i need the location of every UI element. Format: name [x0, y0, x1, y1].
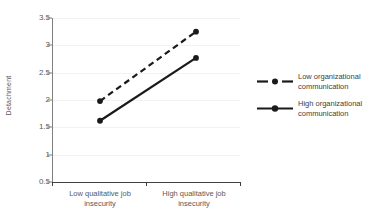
data-point-low-left — [97, 98, 103, 104]
interaction-plot-figure: Detachment 3.5 3 2.5 2 1.5 1 0.5 Low qua… — [0, 0, 383, 224]
legend: Low organizational communication High or… — [256, 72, 383, 127]
legend-label-high: High organizational communication — [298, 99, 382, 119]
legend-label-low: Low organizational communication — [298, 72, 382, 92]
legend-label-low-line2: communication — [298, 82, 382, 92]
legend-key-dashed-icon — [256, 73, 298, 84]
series-high-line — [100, 58, 196, 121]
legend-item-low: Low organizational communication — [256, 72, 383, 92]
data-point-high-right — [193, 55, 199, 61]
data-point-high-left — [97, 118, 103, 124]
legend-key-solid-icon — [256, 100, 298, 111]
legend-label-high-line1: High organizational — [298, 99, 382, 109]
data-point-low-right — [193, 29, 199, 35]
legend-label-low-line1: Low organizational — [298, 72, 382, 82]
legend-label-high-line2: communication — [298, 109, 382, 119]
series-high-organizational-communication — [97, 55, 199, 124]
legend-item-high: High organizational communication — [256, 99, 383, 119]
